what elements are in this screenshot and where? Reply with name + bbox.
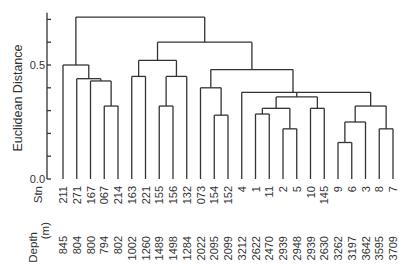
station-label: 152 bbox=[222, 186, 234, 204]
depth-label: 2622 bbox=[250, 236, 262, 260]
station-label: 073 bbox=[195, 186, 207, 204]
y-axis-title: Euclidean Distance bbox=[11, 44, 25, 151]
stn-row-label: Stn bbox=[32, 186, 44, 203]
depth-label: 2095 bbox=[208, 236, 220, 260]
depth-label: 794 bbox=[98, 236, 110, 254]
y-tick-label: 0.5 bbox=[30, 59, 45, 71]
station-label: 214 bbox=[112, 186, 124, 204]
depth-label: 3262 bbox=[332, 236, 344, 260]
station-label: 10 bbox=[305, 186, 317, 198]
depth-label: 2022 bbox=[195, 236, 207, 260]
station-label: 221 bbox=[140, 186, 152, 204]
depth-label: 802 bbox=[112, 236, 124, 254]
station-label: 154 bbox=[208, 186, 220, 204]
depth-label: 3197 bbox=[346, 236, 358, 260]
dendrogram-chart: 0.00.5Euclidean DistanceStnDepth(m)21184… bbox=[0, 0, 409, 264]
depth-label: 2099 bbox=[222, 236, 234, 260]
depth-label: 3709 bbox=[387, 236, 399, 260]
station-label: 145 bbox=[318, 186, 330, 204]
depth-label: 2630 bbox=[318, 236, 330, 260]
station-label: 2 bbox=[277, 186, 289, 192]
depth-label: 845 bbox=[57, 236, 69, 254]
station-label: 167 bbox=[85, 186, 97, 204]
station-label: 5 bbox=[291, 186, 303, 192]
y-tick-label: 0.0 bbox=[30, 173, 45, 185]
depth-label: 2939 bbox=[277, 236, 289, 260]
station-label: 4 bbox=[236, 186, 248, 192]
station-label: 163 bbox=[126, 186, 138, 204]
depth-label: 2948 bbox=[291, 236, 303, 260]
depth-label: 1002 bbox=[126, 236, 138, 260]
depth-label: 2470 bbox=[263, 236, 275, 260]
depth-label: 800 bbox=[85, 236, 97, 254]
station-label: 155 bbox=[153, 186, 165, 204]
depth-row-label: Depth bbox=[27, 232, 39, 263]
depth-label: 3595 bbox=[373, 236, 385, 260]
station-label: 3 bbox=[360, 186, 372, 192]
depth-unit-label: (m) bbox=[39, 222, 51, 239]
station-label: 1 bbox=[250, 186, 262, 192]
station-label: 156 bbox=[167, 186, 179, 204]
depth-label: 3642 bbox=[360, 236, 372, 260]
depth-label: 1284 bbox=[181, 236, 193, 260]
station-label: 067 bbox=[98, 186, 110, 204]
station-label: 132 bbox=[181, 186, 193, 204]
depth-label: 1260 bbox=[140, 236, 152, 260]
station-label: 211 bbox=[57, 186, 69, 204]
station-label: 271 bbox=[71, 186, 83, 204]
depth-label: 1498 bbox=[167, 236, 179, 260]
station-label: 9 bbox=[332, 186, 344, 192]
station-label: 8 bbox=[373, 186, 385, 192]
depth-label: 804 bbox=[71, 236, 83, 254]
depth-label: 1489 bbox=[153, 236, 165, 260]
station-label: 6 bbox=[346, 186, 358, 192]
dendrogram-plot: 0.00.5Euclidean DistanceStnDepth(m)21184… bbox=[0, 0, 409, 264]
station-label: 11 bbox=[263, 186, 275, 197]
depth-label: 2939 bbox=[305, 236, 317, 260]
station-label: 7 bbox=[387, 186, 399, 192]
depth-label: 3212 bbox=[236, 236, 248, 260]
